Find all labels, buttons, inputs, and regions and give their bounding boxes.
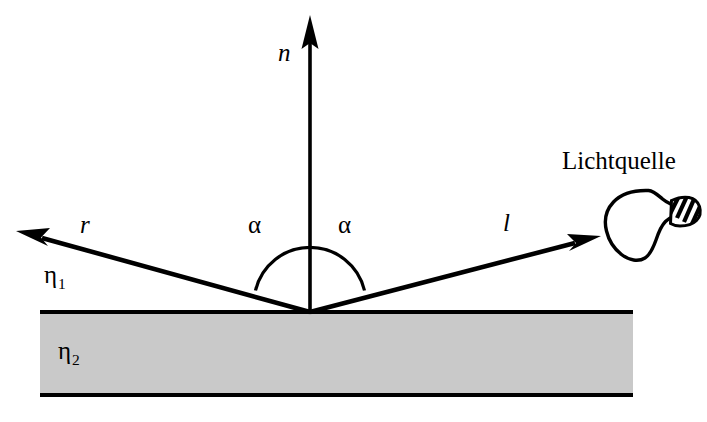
medium-upper-label: η1 — [44, 262, 66, 291]
medium-slab-fill — [40, 312, 633, 395]
light-bulb-glass — [605, 190, 676, 260]
light-ray-label: l — [503, 210, 510, 235]
medium-upper-symbol: η — [44, 261, 57, 288]
light-source-label: Lichtquelle — [562, 148, 676, 173]
reflected-ray-shaft — [42, 238, 310, 312]
angle-label-left: α — [248, 212, 261, 237]
medium-lower-label: η2 — [58, 338, 80, 367]
light-ray-shaft — [310, 243, 575, 312]
reflection-diagram: n r l Lichtquelle α α η1 η2 — [0, 0, 707, 422]
reflected-ray-label: r — [80, 212, 90, 237]
light-bulb-icon — [605, 190, 707, 260]
medium-lower-symbol: η — [58, 337, 71, 364]
angle-label-right: α — [338, 212, 351, 237]
medium-lower-subscript: 2 — [71, 351, 80, 368]
medium-upper-subscript: 1 — [57, 275, 66, 292]
diagram-canvas — [0, 0, 707, 422]
normal-vector-label: n — [278, 40, 291, 65]
